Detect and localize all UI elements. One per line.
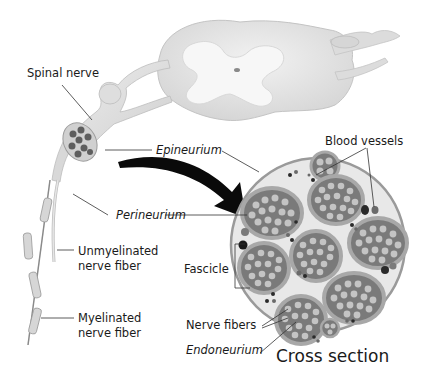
cross-section xyxy=(231,152,407,344)
label-perineurium: Perineurium xyxy=(116,208,186,223)
label-myelinated-line2: nerve fiber xyxy=(78,326,141,341)
label-epineurium: Epineurium xyxy=(156,143,222,158)
label-unmyelinated-line2: nerve fiber xyxy=(78,259,141,274)
label-endoneurium: Endoneurium xyxy=(186,343,263,358)
label-nerve-fibers: Nerve fibers xyxy=(186,318,256,333)
label-myelinated-line1: Myelinated xyxy=(78,311,141,326)
label-spinal-nerve: Spinal nerve xyxy=(27,66,99,81)
label-blood-vessels: Blood vessels xyxy=(325,134,403,149)
label-fascicle: Fascicle xyxy=(184,262,229,277)
nerve-diagram: Spinal nerve Epineurium Blood vessels Pe… xyxy=(0,0,428,381)
label-cross-section: Cross section xyxy=(276,346,389,366)
spinal-cord xyxy=(158,20,400,120)
myelinated-fiber xyxy=(23,180,52,345)
label-unmyelinated-line1: Unmyelinated xyxy=(78,244,158,259)
